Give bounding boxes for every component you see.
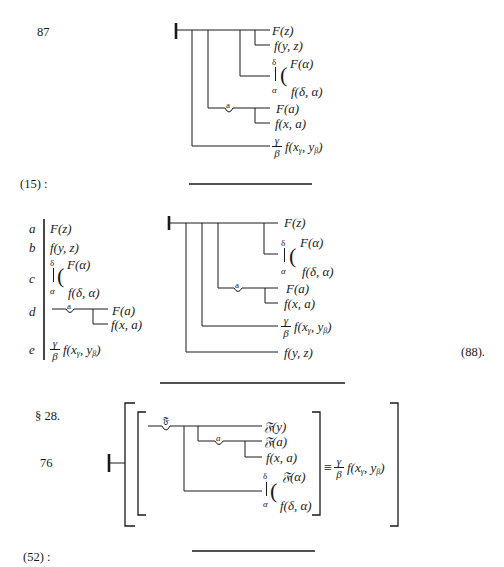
brace-paren: ( bbox=[57, 265, 64, 287]
ancestral-stroke bbox=[284, 248, 285, 262]
row-e: f(xγ, yβ) bbox=[63, 343, 100, 360]
conclusion: F(z) bbox=[272, 24, 294, 37]
reference-label: (15) : bbox=[20, 178, 47, 191]
row-c-lower: f(δ, α) bbox=[68, 286, 100, 299]
condition-upper: F(a) bbox=[286, 282, 309, 295]
brace-paren: ( bbox=[289, 245, 296, 267]
frac-bottom: β bbox=[272, 148, 282, 158]
condition-lower: f(δ, α) bbox=[302, 265, 334, 278]
expr: f(x bbox=[294, 319, 308, 334]
expr: ) bbox=[318, 139, 322, 154]
condition-lower: f(δ, α) bbox=[280, 499, 312, 512]
expr: ) bbox=[380, 460, 384, 475]
concavity-var: a bbox=[226, 99, 230, 112]
condition-lower: f(δ, α) bbox=[291, 85, 323, 98]
concavity-var: 𝔉 bbox=[163, 415, 169, 428]
reference-label: (52) : bbox=[23, 551, 50, 564]
frac-top: γ bbox=[50, 338, 60, 348]
row-a: F(z) bbox=[50, 222, 72, 235]
condition-lower: f(x, a) bbox=[266, 451, 297, 464]
expr: , y bbox=[302, 139, 314, 154]
fraction: γ β bbox=[281, 315, 291, 338]
expr: f(x bbox=[285, 139, 299, 154]
ancestral-stroke bbox=[275, 67, 276, 81]
row-label: b bbox=[29, 241, 36, 254]
conclusion: F(z) bbox=[284, 216, 306, 229]
condition-upper: 𝔉(a) bbox=[264, 435, 287, 448]
row-label: a bbox=[29, 222, 36, 235]
fraction: γ β bbox=[272, 135, 282, 158]
expr: ) bbox=[327, 319, 331, 334]
expr: ) bbox=[96, 342, 100, 357]
brace-paren: ( bbox=[280, 64, 287, 86]
var-alpha: α bbox=[263, 498, 268, 511]
condition-upper: F(a) bbox=[276, 102, 299, 115]
concavity-var: a bbox=[67, 300, 71, 313]
expr: , y bbox=[364, 460, 376, 475]
condition: f(y, z) bbox=[284, 346, 313, 359]
frac-bottom: β bbox=[281, 328, 291, 338]
formula-number: 76 bbox=[40, 457, 53, 470]
rhs-expr: f(xγ, yβ) bbox=[347, 461, 384, 478]
row-d-upper: F(a) bbox=[112, 304, 135, 317]
concavity-var: a bbox=[216, 432, 221, 445]
row-label: c bbox=[29, 272, 35, 285]
brace-paren: ( bbox=[270, 480, 277, 502]
section-heading: § 28. bbox=[35, 410, 60, 423]
formula-number: 87 bbox=[37, 26, 50, 39]
row-d-lower: f(x, a) bbox=[111, 318, 142, 331]
var-alpha: α bbox=[272, 84, 277, 97]
condition-lower: f(x, a) bbox=[284, 297, 315, 310]
formula-number: (88). bbox=[461, 346, 485, 359]
condition-lower: f(x, a) bbox=[275, 117, 306, 130]
expr: f(x bbox=[347, 460, 361, 475]
condition-upper: F(α) bbox=[300, 236, 323, 249]
concavity-var: a bbox=[235, 279, 239, 292]
ancestral-stroke bbox=[266, 482, 267, 496]
frac-bottom: β bbox=[334, 469, 344, 479]
condition: f(y, z) bbox=[274, 39, 303, 52]
fraction: γ β bbox=[334, 456, 344, 479]
condition-expr: f(xγ, yβ) bbox=[294, 320, 331, 337]
ancestral-stroke bbox=[53, 268, 54, 282]
condition-expr: f(xγ, yβ) bbox=[285, 140, 322, 157]
frac-top: γ bbox=[334, 456, 344, 466]
var-alpha: α bbox=[50, 285, 55, 298]
row-b: f(y, z) bbox=[50, 241, 79, 254]
frac-top: γ bbox=[281, 315, 291, 325]
expr: f(x bbox=[63, 342, 77, 357]
frac-bottom: β bbox=[50, 351, 60, 361]
row-label: e bbox=[29, 343, 35, 356]
row-label: d bbox=[29, 305, 36, 318]
fraction: γ β bbox=[50, 338, 60, 361]
expr: , y bbox=[311, 319, 323, 334]
conclusion: 𝔉(y) bbox=[264, 420, 286, 433]
row-c-upper: F(α) bbox=[67, 258, 90, 271]
var-alpha: α bbox=[281, 265, 286, 278]
begriffsschrift-strokes bbox=[0, 0, 504, 567]
frac-top: γ bbox=[272, 135, 282, 145]
expr: , y bbox=[80, 342, 92, 357]
equivalence-sign: ≡ bbox=[324, 461, 332, 474]
condition-upper: F(α) bbox=[290, 57, 313, 70]
condition-upper: 𝔉(α) bbox=[282, 470, 305, 483]
